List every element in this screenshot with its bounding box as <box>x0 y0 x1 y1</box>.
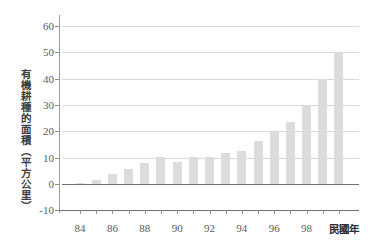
x-tick-mark-84 <box>80 210 81 214</box>
x-tick-mark-88 <box>145 210 146 214</box>
x-tick-mark-100 <box>339 210 340 214</box>
x-tick-mark-87 <box>129 210 130 214</box>
x-tick-mark-98 <box>307 210 308 214</box>
x-tick-mark-94 <box>242 210 243 214</box>
x-tick-mark-92 <box>210 210 211 214</box>
x-tick-88: 88 <box>139 222 150 234</box>
chart-figure: 有機耕種的面積（平方公里） 60 50 40 30 20 10 0 -10 <box>0 0 381 250</box>
x-tick-98: 98 <box>301 222 312 234</box>
x-tick-94: 94 <box>236 222 247 234</box>
x-tick-mark-85 <box>96 210 97 214</box>
x-tick-mark-90 <box>177 210 178 214</box>
x-tick-mark-96 <box>274 210 275 214</box>
x-tick-86: 86 <box>107 222 118 234</box>
x-tick-mark-93 <box>226 210 227 214</box>
x-tick-mark-99 <box>323 210 324 214</box>
x-tick-96: 96 <box>269 222 280 234</box>
x-axis-tick-labels: 8486889092949698100 <box>0 0 381 250</box>
x-tick-84: 84 <box>75 222 86 234</box>
x-tick-92: 92 <box>204 222 215 234</box>
x-tick-mark-89 <box>161 210 162 214</box>
x-tick-90: 90 <box>172 222 183 234</box>
x-tick-mark-97 <box>290 210 291 214</box>
x-tick-mark-86 <box>112 210 113 214</box>
x-tick-mark-91 <box>193 210 194 214</box>
x-axis-title: 民國年 <box>329 221 359 236</box>
x-tick-mark-95 <box>258 210 259 214</box>
